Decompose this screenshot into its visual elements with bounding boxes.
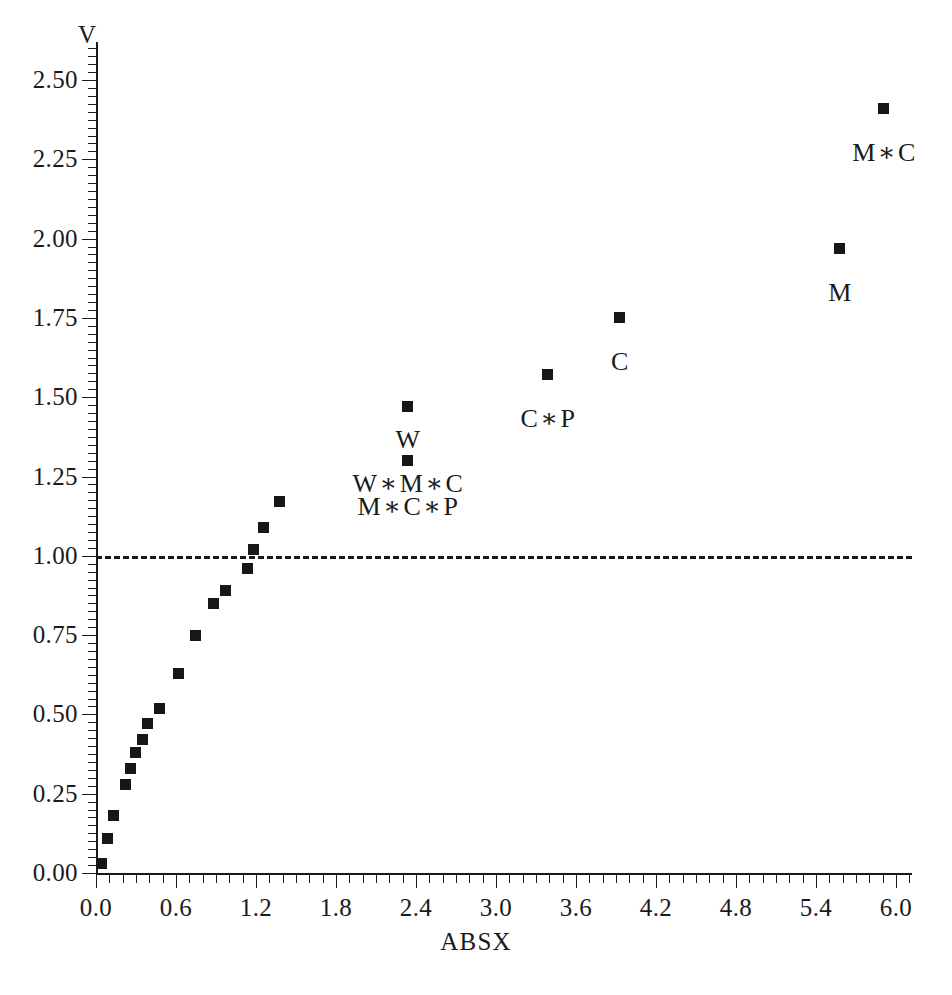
y-tick-minor [88,651,96,652]
y-tick-minor [88,88,96,89]
y-tick-minor [88,48,96,49]
asterisk-operator-icon: ∗ [421,492,443,521]
label-token: C [898,138,916,167]
x-tick-major [656,875,657,888]
x-tick-major [416,875,417,888]
x-tick-minor [643,875,644,883]
y-tick-minor [88,484,96,485]
y-tick-minor [88,239,96,240]
y-tick-minor [88,595,96,596]
y-tick-minor [88,128,96,129]
x-tick-minor [749,875,750,883]
y-tick-minor [88,865,96,866]
y-tick-label: 0.75 [4,622,78,647]
y-tick-minor [88,508,96,509]
y-tick-minor [88,675,96,676]
y-tick-minor [88,151,96,152]
y-tick-minor [88,699,96,700]
y-tick-minor [88,564,96,565]
x-tick-minor [229,875,230,883]
y-tick-major [82,556,96,557]
y-tick-minor [88,730,96,731]
y-tick-minor [88,223,96,224]
x-tick-label: 1.2 [211,893,301,923]
x-tick-minor [509,875,510,883]
x-tick-minor [203,875,204,883]
label-token: C [520,404,538,433]
y-tick-minor [88,310,96,311]
y-tick-minor [88,334,96,335]
y-tick-minor [88,778,96,779]
y-tick-minor [88,270,96,271]
x-tick-minor [683,875,684,883]
y-tick-minor [88,429,96,430]
y-tick-label: 2.25 [4,146,78,171]
x-tick-minor [163,875,164,883]
x-tick-minor [669,875,670,883]
x-tick-minor [909,875,910,883]
x-tick-minor [856,875,857,883]
y-tick-minor [88,722,96,723]
y-tick-minor [88,120,96,121]
data-point [102,833,113,844]
x-axis-title: ABSX [0,928,952,956]
data-point-label: C [611,349,629,375]
x-tick-minor [723,875,724,883]
asterisk-operator-icon: ∗ [538,404,560,433]
y-tick-label: 0.25 [4,781,78,806]
x-tick-minor [363,875,364,883]
x-tick-minor [376,875,377,883]
y-tick-minor [88,492,96,493]
x-tick-label: 0.0 [51,893,141,923]
x-tick-label: 5.4 [771,893,861,923]
y-tick-minor [88,619,96,620]
data-point [208,598,219,609]
data-point [137,734,148,745]
x-tick-major [96,875,97,888]
x-tick-minor [309,875,310,883]
y-tick-minor [88,302,96,303]
data-point-label: M [828,280,852,306]
x-tick-major [496,875,497,888]
y-tick-minor [88,794,96,795]
y-tick-minor [88,746,96,747]
y-tick-minor [88,841,96,842]
y-tick-minor [88,849,96,850]
y-tick-minor [88,262,96,263]
x-tick-major [896,875,897,888]
x-tick-minor [829,875,830,883]
y-tick-minor [88,833,96,834]
x-tick-minor [869,875,870,883]
y-tick-minor [88,175,96,176]
y-tick-minor [88,143,96,144]
y-tick-minor [88,706,96,707]
data-point [190,630,201,641]
data-point-label: M∗C∗P [358,494,459,520]
y-tick-minor [88,405,96,406]
y-tick-minor [88,437,96,438]
asterisk-operator-icon: ∗ [381,492,403,521]
data-point-label: C∗P [520,406,575,432]
y-tick-major [82,873,96,874]
x-tick-major [256,875,257,888]
y-tick-minor [88,136,96,137]
data-point [242,563,253,574]
y-tick-minor [88,540,96,541]
y-tick-minor [88,580,96,581]
data-point [120,779,131,790]
y-tick-minor [88,667,96,668]
x-tick-minor [763,875,764,883]
y-tick-minor [88,611,96,612]
x-tick-minor [323,875,324,883]
y-tick-minor [88,373,96,374]
data-point [274,496,285,507]
data-point [834,243,845,254]
x-tick-minor [389,875,390,883]
x-tick-minor [883,875,884,883]
y-tick-minor [88,627,96,628]
y-axis-line [96,42,98,875]
y-tick-minor [88,532,96,533]
y-tick-minor [88,445,96,446]
y-tick-minor [88,572,96,573]
x-tick-minor [843,875,844,883]
